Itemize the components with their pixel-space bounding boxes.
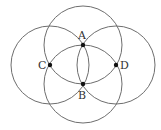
label-d: D	[120, 59, 129, 72]
point-d	[114, 63, 118, 67]
label-b: B	[78, 89, 86, 102]
point-c	[48, 63, 52, 67]
geometry-diagram: A B C D	[0, 0, 161, 130]
label-a: A	[77, 29, 87, 42]
point-b	[81, 82, 85, 86]
label-c: C	[38, 59, 46, 72]
point-a	[81, 43, 85, 47]
